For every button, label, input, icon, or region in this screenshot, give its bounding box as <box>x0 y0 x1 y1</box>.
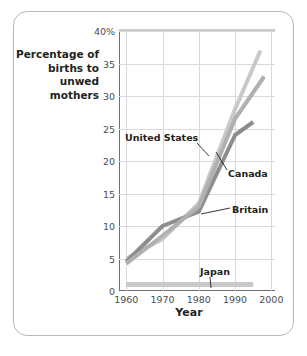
series-label-canada: Canada <box>228 168 268 179</box>
y-tick-label: 35 <box>103 58 115 69</box>
x-tick-label: 1960 <box>114 294 138 305</box>
x-tick-label: 1970 <box>150 294 174 305</box>
y-tick-label: 15 <box>103 188 115 199</box>
y-tick-label: 25 <box>103 123 115 134</box>
series-label-united-states: United States <box>125 132 198 143</box>
plot-area: 0510152025303540% 19601970198019902000 <box>119 31 275 291</box>
y-axis-title: Percentage of births to unwed mothers <box>14 48 99 102</box>
series-line-united-states <box>126 51 260 259</box>
x-tick-label: 1980 <box>187 294 211 305</box>
x-tick-label: 1990 <box>223 294 247 305</box>
y-tick-label: 5 <box>109 253 115 264</box>
y-tick-label: 30 <box>103 91 115 102</box>
series-lines <box>119 31 275 291</box>
x-tick-label: 2000 <box>259 294 283 305</box>
series-label-japan: Japan <box>200 266 230 277</box>
series-label-britain: Britain <box>232 204 268 215</box>
y-tick-label: 10 <box>103 221 115 232</box>
y-tick-label: 20 <box>103 156 115 167</box>
x-axis-title: Year <box>104 306 274 319</box>
y-tick-label: 40% <box>94 26 115 37</box>
